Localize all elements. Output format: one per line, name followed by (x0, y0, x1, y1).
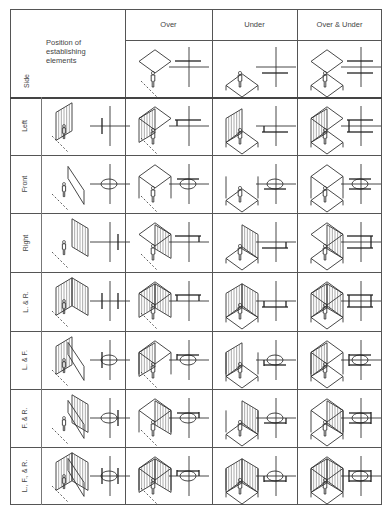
column-divider (212, 9, 213, 505)
row-label-left: Left (20, 97, 30, 155)
establishing-element-over_under (299, 41, 383, 96)
cell-l_f_r-over_under (299, 448, 383, 504)
column-header-under: Under (212, 20, 297, 29)
side-axis-label: Side (22, 64, 32, 98)
row-label-l_f: L. & F. (20, 331, 30, 389)
row-label-right: Right (20, 213, 30, 272)
cell-l_r-under (214, 273, 298, 330)
cell-left-over_under (299, 98, 383, 154)
side-diagram-right (42, 214, 134, 271)
cell-f_r-over (127, 390, 211, 446)
cell-f_r-over_under (299, 390, 383, 446)
corner-title-line: Position of (46, 38, 86, 47)
establishing-element-under (214, 41, 298, 96)
cell-l_f-over (127, 332, 211, 388)
cell-right-over (127, 214, 211, 271)
cell-front-under (214, 156, 298, 212)
side-diagram-l_f_r (42, 448, 134, 504)
cell-l_f_r-under (214, 448, 298, 504)
corner-title-line: elements (46, 56, 86, 65)
cell-l_r-over (127, 273, 211, 330)
column-header-over_under: Over & Under (297, 20, 382, 29)
cell-l_f-over_under (299, 332, 383, 388)
row-label-l_f_r: L., F., & R. (20, 447, 30, 505)
cell-f_r-under (214, 390, 298, 446)
side-diagram-l_r (42, 273, 134, 330)
cell-right-over_under (299, 214, 383, 271)
corner-title-line: establishing (46, 47, 86, 56)
side-diagram-l_f (42, 332, 134, 388)
corner-title: Position ofestablishingelements (46, 38, 86, 65)
cell-l_f_r-over (127, 448, 211, 504)
side-diagram-left (42, 98, 134, 154)
row-label-f_r: F. & R. (20, 389, 30, 447)
cell-front-over_under (299, 156, 383, 212)
column-header-over: Over (125, 20, 212, 29)
row-label-front: Front (20, 155, 30, 213)
cell-left-under (214, 98, 298, 154)
side-diagram-f_r (42, 390, 134, 446)
row-label-l_r: L. & R. (20, 272, 30, 331)
cell-front-over (127, 156, 211, 212)
cell-l_r-over_under (299, 273, 383, 330)
establishing-element-over (127, 41, 211, 96)
side-diagram-front (42, 156, 134, 212)
cell-l_f-under (214, 332, 298, 388)
cell-left-over (127, 98, 211, 154)
cell-right-under (214, 214, 298, 271)
